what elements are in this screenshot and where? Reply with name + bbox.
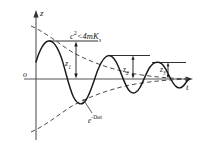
amplitude-label-z3: z3	[160, 66, 166, 76]
amplitude-z1-subscript: 1	[68, 64, 71, 70]
amplitude-label-z1: z1	[65, 60, 71, 70]
amplitude-z3-subscript: 3	[163, 70, 166, 76]
figure-canvas	[0, 0, 200, 148]
damping-condition-annotation: c2<4mKs	[70, 30, 101, 43]
origin-label: o	[23, 71, 27, 79]
t-axis-label: t	[186, 83, 189, 92]
envelope-label-exponent: -Dωt	[91, 114, 102, 120]
damping-condition-subscript: s	[99, 37, 101, 43]
plot-background	[0, 0, 200, 148]
damping-condition-inequality: <4mK	[77, 31, 99, 41]
amplitude-z2-subscript: 2	[126, 70, 129, 76]
damped-vibration-figure: z t o c2<4mKs z1 z2 z3 e-Dωt	[0, 0, 200, 148]
envelope-equation-label: e-Dωt	[88, 115, 102, 124]
z-axis-label: z	[40, 9, 44, 18]
amplitude-label-z2: z2	[123, 66, 129, 76]
